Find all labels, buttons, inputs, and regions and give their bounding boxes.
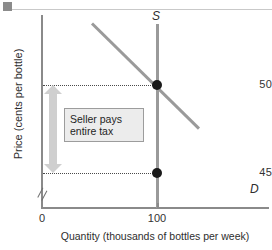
equilibrium-point-45 xyxy=(152,168,162,178)
y-tick-label-50: 50 xyxy=(238,78,272,90)
demand-curve-label: D xyxy=(250,182,259,196)
y-axis-break-icon xyxy=(33,183,51,203)
header-tab-marker xyxy=(3,2,12,11)
y-tick-label-45: 45 xyxy=(238,166,272,178)
x-axis-title: Quantity (thousands of bottles per week) xyxy=(41,230,269,242)
x-axis xyxy=(41,207,269,209)
header-rule xyxy=(12,9,272,10)
tax-span-arrow-icon xyxy=(44,85,62,173)
supply-curve-label: S xyxy=(152,9,160,23)
y-axis xyxy=(41,15,43,209)
y-axis-title: Price (cents per bottle) xyxy=(12,24,24,184)
x-tick-mark-100 xyxy=(157,203,159,209)
equilibrium-point-50 xyxy=(152,80,162,90)
x-tick-label-100: 100 xyxy=(137,212,177,224)
figure-header-strip xyxy=(0,2,272,11)
supply-demand-figure: Price (cents per bottle) 50 45 S D Selle… xyxy=(0,0,272,250)
seller-pays-entire-tax-callout: Seller pays entire tax xyxy=(64,108,144,142)
supply-curve xyxy=(156,24,159,208)
x-tick-label-0: 0 xyxy=(22,212,62,224)
callout-line-2: entire tax xyxy=(70,125,138,137)
callout-line-1: Seller pays xyxy=(70,113,138,125)
price-guide-45 xyxy=(43,173,157,174)
